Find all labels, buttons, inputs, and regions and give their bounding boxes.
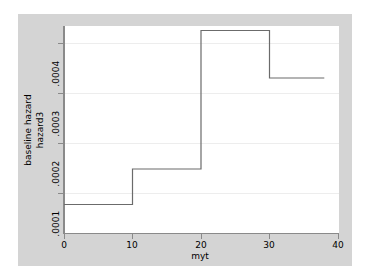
- y-tick-0001: [58, 193, 63, 194]
- y-axis-title: baseline hazard hazard3: [18, 26, 48, 233]
- y-axis-title-outer: baseline hazard: [23, 94, 33, 165]
- gridline-0002: [65, 143, 339, 144]
- x-tick-label-10: 10: [126, 240, 137, 250]
- y-tick-label-0002: .0002: [51, 161, 61, 187]
- y-axis-title-inner: hazard3: [35, 111, 45, 147]
- gridline-0003: [65, 93, 339, 94]
- x-tick-10: [132, 234, 133, 239]
- y-tick-label-0003: .0003: [51, 111, 61, 137]
- x-tick-30: [269, 234, 270, 239]
- x-tick-label-30: 30: [263, 240, 274, 250]
- y-axis-line: [63, 26, 64, 233]
- x-tick-40: [338, 234, 339, 239]
- y-tick-0003: [58, 93, 63, 94]
- y-tick-0002: [58, 143, 63, 144]
- chart-figure: .0004 .0003 .0002 .0001 0 10 20 30 40 my…: [0, 0, 366, 279]
- plot-area: [64, 26, 339, 233]
- y-tick-label-0004: .0004: [51, 61, 61, 87]
- x-axis-title: myt: [0, 251, 366, 261]
- x-tick-0: [64, 234, 65, 239]
- x-tick-label-20: 20: [195, 240, 206, 250]
- x-axis-title-text: myt: [191, 251, 209, 261]
- x-tick-20: [201, 234, 202, 239]
- x-tick-label-40: 40: [332, 240, 343, 250]
- y-tick-label-0001: .0001: [51, 211, 61, 237]
- y-tick-0004: [58, 43, 63, 44]
- gridline-0004: [65, 43, 339, 44]
- x-tick-label-0: 0: [61, 240, 67, 250]
- gridline-0001: [65, 193, 339, 194]
